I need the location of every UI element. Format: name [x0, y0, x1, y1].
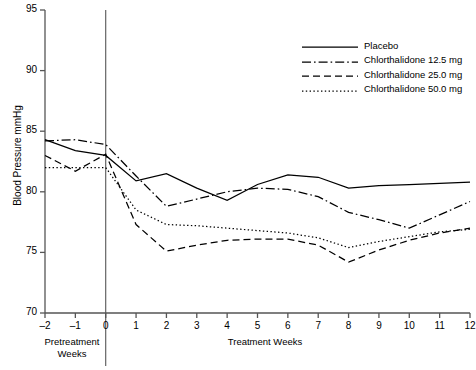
- x-tick-label: 0: [93, 320, 119, 331]
- x-tick-label: 8: [336, 320, 362, 331]
- legend-label: Chlorthalidone 50.0 mg: [364, 83, 462, 94]
- treatment-caption: Treatment Weeks: [150, 336, 380, 347]
- series-line: [45, 168, 470, 248]
- series-line: [45, 140, 470, 201]
- x-tick-label: 12: [457, 320, 476, 331]
- chart-figure: Blood Pressure mmHg 959085807570 –2–1012…: [0, 0, 476, 370]
- x-tick-label: 1: [123, 320, 149, 331]
- legend-label: Placebo: [364, 40, 398, 51]
- y-tick-label: 70: [11, 306, 37, 317]
- pretreatment-caption: Pretreatment Weeks: [28, 336, 116, 360]
- x-tick-label: 3: [184, 320, 210, 331]
- chart-legend: PlaceboChlorthalidone 12.5 mgChlorthalid…: [302, 38, 474, 96]
- y-axis-label-wrapper: Blood Pressure mmHg: [2, 0, 20, 330]
- y-tick-label: 80: [11, 185, 37, 196]
- legend-item: Chlorthalidone 25.0 mg: [302, 67, 474, 82]
- legend-label: Chlorthalidone 12.5 mg: [364, 54, 462, 65]
- legend-item: Placebo: [302, 38, 474, 53]
- y-tick-label: 85: [11, 124, 37, 135]
- legend-line-sample: [302, 54, 358, 66]
- pretreatment-caption-line2: Weeks: [28, 348, 116, 360]
- legend-line-sample: [302, 68, 358, 80]
- x-tick-label: 2: [153, 320, 179, 331]
- x-tick-label: 4: [214, 320, 240, 331]
- y-axis-label: Blood Pressure mmHg: [12, 81, 23, 231]
- series-line: [45, 154, 470, 262]
- y-tick-label: 95: [11, 3, 37, 14]
- x-tick-label: 11: [427, 320, 453, 331]
- legend-item: Chlorthalidone 50.0 mg: [302, 82, 474, 97]
- y-tick-label: 90: [11, 64, 37, 75]
- x-tick-label: –2: [32, 320, 58, 331]
- pretreatment-caption-line1: Pretreatment: [28, 336, 116, 348]
- x-tick-label: 9: [366, 320, 392, 331]
- x-tick-label: 5: [245, 320, 271, 331]
- y-tick-label: 75: [11, 245, 37, 256]
- x-tick-label: –1: [62, 320, 88, 331]
- legend-item: Chlorthalidone 12.5 mg: [302, 53, 474, 68]
- legend-label: Chlorthalidone 25.0 mg: [364, 69, 462, 80]
- legend-line-sample: [302, 83, 358, 95]
- chart-series-group: [45, 140, 470, 262]
- x-tick-label: 6: [275, 320, 301, 331]
- legend-line-sample: [302, 39, 358, 51]
- x-tick-label: 7: [305, 320, 331, 331]
- x-tick-label: 10: [396, 320, 422, 331]
